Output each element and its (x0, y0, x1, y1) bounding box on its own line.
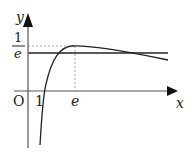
y-fraction-numerator: 1 (14, 30, 22, 45)
y-axis-label: y (15, 9, 25, 25)
x-tick-one: 1 (35, 93, 44, 109)
function-curve (40, 46, 168, 145)
y-fraction-denominator: e (14, 46, 22, 61)
y-axis-arrow-icon (23, 13, 33, 27)
x-tick-e: e (71, 93, 79, 109)
origin-label: O (13, 93, 24, 109)
function-graph: y x O 1 e 1 e (0, 0, 188, 156)
x-axis-label: x (176, 95, 184, 111)
